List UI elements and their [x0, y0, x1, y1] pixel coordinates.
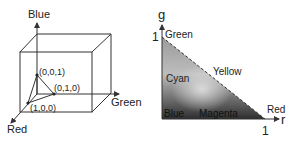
point-001-label: (0,0,1) — [39, 67, 65, 77]
green-axis-label: Green — [111, 96, 142, 108]
region-green-label: Green — [165, 29, 193, 40]
diagram-canvas: Blue Green Red (0,0,1) (0,1,0) (1,0,0) g… — [0, 0, 299, 142]
region-cyan-label: Cyan — [166, 73, 189, 84]
region-yellow-label: Yellow — [213, 66, 242, 77]
region-magenta-label: Magenta — [199, 108, 238, 119]
region-blue-label: Blue — [164, 108, 184, 119]
cube-edge — [92, 34, 111, 52]
red-axis-label: Red — [7, 123, 27, 135]
cube-edge — [20, 34, 37, 52]
unit-plane-triangle — [28, 75, 54, 103]
point-100-label: (1,0,0) — [30, 103, 56, 113]
blue-axis-label: Blue — [28, 8, 50, 20]
g-axis-label: g — [158, 7, 165, 22]
region-red-label: Red — [267, 104, 285, 115]
g-axis-max: 1 — [152, 30, 159, 44]
cube-points — [26, 73, 55, 104]
r-axis-max: 1 — [262, 124, 269, 138]
cube-edge — [92, 93, 111, 112]
point-010-label: (0,1,0) — [54, 83, 80, 93]
